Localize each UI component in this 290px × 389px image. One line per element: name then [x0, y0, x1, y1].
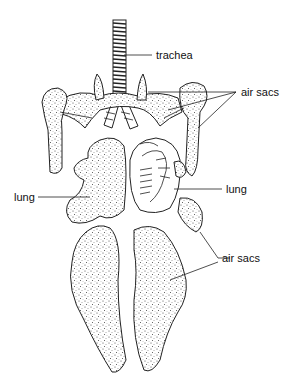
trachea-ring	[113, 47, 126, 48]
trachea-ring	[113, 23, 126, 24]
trachea-ring	[113, 35, 126, 36]
trachea-ring	[113, 27, 126, 28]
trachea-ring	[113, 71, 126, 72]
trachea-ring	[113, 91, 126, 92]
label-trachea: trachea	[156, 49, 194, 61]
trachea-ring	[113, 79, 126, 80]
trachea-ring	[113, 75, 126, 76]
trachea-ring	[113, 67, 126, 68]
air-sac-abdominal-right	[134, 226, 187, 370]
air-sac-abdominal-left	[71, 226, 127, 373]
air-sac-cervical-right	[137, 74, 147, 100]
air-sac-cervical-left	[94, 74, 104, 100]
air-sac-right-lateral	[174, 161, 186, 177]
label-air-sacs-lower: air sacs	[222, 252, 260, 264]
trachea-ring	[113, 39, 126, 40]
trachea	[113, 20, 126, 96]
lung-right	[130, 138, 181, 213]
lung-left	[66, 138, 126, 223]
trachea-ring	[113, 31, 126, 32]
trachea-ring	[113, 83, 126, 84]
air-sac-humeral-left	[42, 88, 67, 173]
respiratory-diagram: trachea air sacs lung lung air sacs	[0, 0, 290, 389]
air-sac-right-thoracic	[178, 198, 202, 232]
label-lung-left: lung	[14, 191, 35, 203]
air-sac-humeral-right	[180, 82, 207, 176]
trachea-ring	[113, 63, 126, 64]
label-lung-right: lung	[226, 183, 247, 195]
trachea-ring	[113, 51, 126, 52]
label-air-sacs-upper: air sacs	[241, 86, 279, 98]
air-sac-clavicular	[60, 93, 182, 128]
trachea-ring	[113, 43, 126, 44]
trachea-ring	[113, 59, 126, 60]
trachea-ring	[113, 87, 126, 88]
